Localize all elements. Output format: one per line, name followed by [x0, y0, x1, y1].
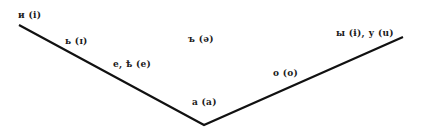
label-y-u: ы (ɨ), у (u) — [336, 29, 394, 38]
label-hard-sign: ъ (ə) — [188, 35, 214, 44]
label-soft-sign: ь (ɪ) — [65, 37, 88, 46]
vowel-line-svg — [0, 0, 423, 134]
label-a: а (а) — [192, 98, 217, 107]
label-i: и (i) — [18, 11, 41, 20]
vowel-diagram: и (i) ь (ɪ) е, ѣ (е) ъ (ə) а (а) о (о) ы… — [0, 0, 423, 134]
label-e-yat: е, ѣ (е) — [113, 60, 151, 69]
label-o: о (о) — [273, 69, 298, 78]
